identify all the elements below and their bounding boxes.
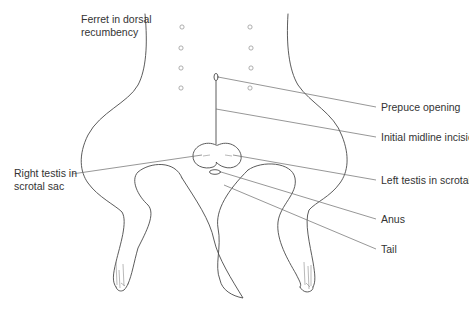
- ferret-diagram: [0, 0, 469, 310]
- port-marker: [179, 46, 183, 50]
- left-paw: [116, 262, 128, 291]
- leader-tail: [224, 185, 376, 249]
- leader-prepuce-opening: [218, 77, 376, 107]
- label-left-testis: Left testis in scrotal sac: [381, 174, 469, 187]
- label-initial-midline-incision: Initial midline incision: [381, 131, 469, 144]
- tail: [182, 170, 248, 298]
- port-marker: [179, 86, 183, 90]
- prepuce-opening: [214, 73, 218, 80]
- body-outline-right: [287, 14, 347, 287]
- testis-divider: [203, 155, 232, 156]
- port-marker: [249, 46, 253, 50]
- anus: [210, 170, 221, 175]
- label-prepuce-opening: Prepuce opening: [381, 101, 469, 114]
- port-marker: [179, 66, 183, 70]
- port-marker: [249, 66, 253, 70]
- label-right-testis: Right testis in scrotal sac: [14, 167, 77, 193]
- body-outline-left: [81, 14, 146, 287]
- diagram-title-line-2: recumbency: [81, 26, 152, 39]
- leader-anus: [221, 172, 376, 219]
- label-right-testis-line-2: scrotal sac: [14, 180, 77, 193]
- diagram-title: Ferret in dorsal recumbency: [81, 13, 152, 39]
- port-marker: [248, 25, 252, 29]
- leader-initial-midline-incision: [216, 109, 376, 137]
- port-marker: [248, 86, 252, 90]
- label-anus: Anus: [381, 213, 405, 226]
- label-tail: Tail: [381, 243, 397, 256]
- left-hind-leg: [128, 164, 182, 284]
- label-right-testis-line-1: Right testis in: [14, 167, 77, 180]
- port-marker: [180, 25, 184, 29]
- leader-right-testis: [72, 155, 202, 174]
- leader-left-testis: [233, 155, 376, 180]
- right-paw: [300, 262, 313, 292]
- diagram-title-line-1: Ferret in dorsal: [81, 13, 152, 26]
